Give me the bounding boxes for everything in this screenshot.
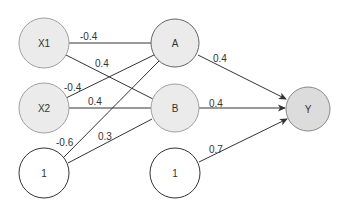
node-label-a: A [172,38,179,49]
node-b: B [151,84,199,132]
node-label-b: B [172,103,179,114]
weight-label-x1-b: 0.4 [95,58,109,69]
node-label-x2: X2 [38,103,51,114]
weight-label-x1-a: -0.4 [80,31,98,42]
edge-bias2-y [199,119,287,162]
node-label-bias1: 1 [41,168,47,179]
weight-label-bias1-a: -0.6 [56,137,74,148]
neural-network-diagram: X1X21AB1Y -0.40.4-0.40.4-0.60.30.40.40.7 [0,0,348,209]
weight-label-x2-a: -0.4 [64,82,82,93]
weight-label-bias2-y: 0.7 [209,144,223,155]
node-label-bias2: 1 [172,168,178,179]
node-y: Y [286,87,330,131]
node-a: A [151,19,199,67]
weight-label-x2-b: 0.4 [88,96,102,107]
weight-label-b-y: 0.4 [209,98,223,109]
edge-a-y [198,55,286,99]
node-bias2: 1 [150,148,200,198]
node-bias1: 1 [19,148,69,198]
weight-label-bias1-b: 0.3 [98,131,112,142]
node-x1: X1 [19,18,69,68]
node-x2: X2 [19,83,69,133]
node-label-y: Y [305,104,312,115]
weight-label-a-y: 0.4 [213,53,227,64]
node-label-x1: X1 [38,38,51,49]
